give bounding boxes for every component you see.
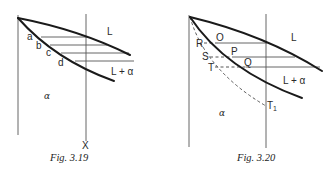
label-q: Q <box>244 57 252 68</box>
solidus-curve <box>18 18 114 81</box>
label-liquid: L <box>291 32 297 43</box>
label-o: O <box>216 32 224 43</box>
figure-3-20: O P Q R S T T1 L L + α α Fig. 3.20 <box>189 14 322 163</box>
label-solid-alpha: α <box>44 91 50 101</box>
caption-fig-3-19: Fig. 3.19 <box>49 152 89 163</box>
caption-fig-3-20: Fig. 3.20 <box>236 152 276 163</box>
label-a: a <box>27 31 33 42</box>
label-s: S <box>202 51 209 62</box>
label-c: c <box>46 47 51 58</box>
figure-3-19: a b c d L L + α α X Fig. 3.19 <box>18 14 134 163</box>
label-r: R <box>196 38 203 49</box>
label-two-phase: L + α <box>283 75 306 86</box>
label-b: b <box>36 40 42 51</box>
label-d: d <box>58 57 64 68</box>
label-p: P <box>231 46 238 57</box>
label-solid-alpha: α <box>219 108 225 118</box>
label-two-phase: L + α <box>111 66 134 77</box>
label-t1: T1 <box>267 100 277 112</box>
label-t: T <box>208 62 214 73</box>
phase-diagram-canvas: a b c d L L + α α X Fig. 3.19 O P Q R S … <box>0 0 335 175</box>
liquidus-curve <box>18 18 130 55</box>
label-liquid: L <box>107 26 113 37</box>
label-composition-x: X <box>82 140 89 151</box>
